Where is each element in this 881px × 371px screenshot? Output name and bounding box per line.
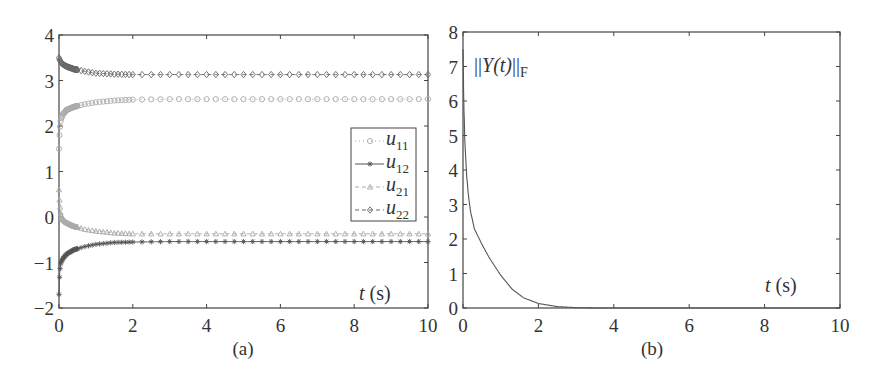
y-tick-label: 1 [45, 162, 55, 183]
x-tick-label: 0 [458, 315, 468, 336]
y-tick-label: 5 [449, 126, 459, 147]
y-tick-label: 0 [45, 207, 55, 228]
y-tick-label: 4 [45, 25, 55, 46]
y-tick-label: 6 [449, 91, 459, 112]
series-u22 [56, 55, 430, 78]
series-norm-Y [463, 49, 840, 308]
y-tick-label: 3 [45, 71, 55, 92]
x-tick-label: 6 [684, 315, 694, 336]
x-tick-label: 4 [202, 315, 212, 336]
y-tick-label: −2 [34, 298, 54, 319]
x-tick-label: 8 [349, 315, 359, 336]
y-tick-label: 2 [45, 116, 55, 137]
panel-a-caption: (a) [232, 338, 253, 360]
y-tick-label: −1 [34, 253, 54, 274]
panel-a-xlabel: t (s) [359, 282, 391, 305]
y-tick-label: 7 [449, 57, 459, 78]
panel-b-annotation: ||Y(t)||F [474, 54, 528, 80]
x-tick-label: 2 [128, 315, 138, 336]
panel-a-chart: 024681043210−1−2 u11u12u21u22 t (s) (a) [34, 25, 438, 360]
x-tick-label: 8 [760, 315, 770, 336]
y-tick-label: 2 [449, 229, 459, 250]
y-tick-label: 4 [449, 160, 459, 181]
panel-b-xlabel: t (s) [765, 274, 797, 297]
y-tick-label: 0 [449, 298, 459, 319]
x-tick-label: 10 [419, 315, 438, 336]
panel-b-chart: 0246810876543210 ||Y(t)||F t (s) (b) [449, 22, 850, 360]
figure: 024681043210−1−2 u11u12u21u22 t (s) (a) … [0, 0, 881, 371]
x-tick-label: 0 [54, 315, 64, 336]
x-tick-label: 6 [276, 315, 286, 336]
panel-b-caption: (b) [641, 338, 663, 360]
y-tick-label: 3 [449, 195, 459, 216]
panel-b-series [463, 49, 840, 308]
x-tick-label: 4 [609, 315, 619, 336]
panel-a-legend: u11u12u21u22 [351, 127, 416, 222]
y-tick-label: 8 [449, 22, 459, 43]
y-tick-label: 1 [449, 264, 459, 285]
x-tick-label: 10 [831, 315, 850, 336]
x-tick-label: 2 [534, 315, 544, 336]
